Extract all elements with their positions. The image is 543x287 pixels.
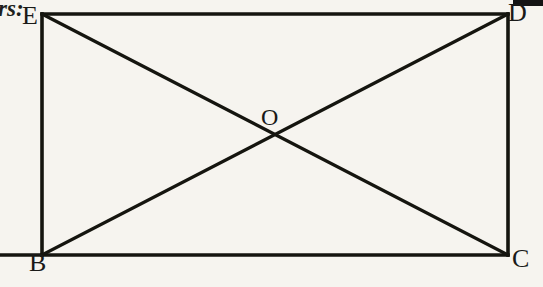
geometry-figure: rs: E D B C O [0, 0, 543, 287]
vertex-label-C: C [512, 246, 529, 272]
vertex-label-O: O [261, 105, 278, 129]
vertex-label-E: E [22, 3, 38, 29]
rectangle-diagram-svg [0, 0, 543, 287]
vertex-label-B: B [29, 250, 46, 276]
vertex-label-D: D [508, 0, 527, 26]
